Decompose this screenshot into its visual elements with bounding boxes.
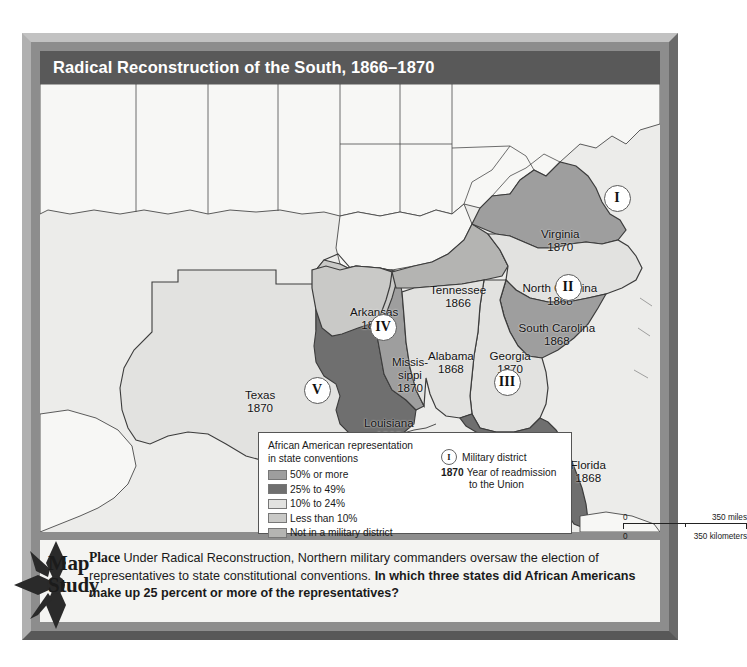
state-label-alabama: Alabama1868 [428,350,474,376]
legend-item: 25% to 49% [268,483,438,496]
page-title: Radical Reconstruction of the South, 186… [40,51,660,84]
legend-title: African American representation in state… [268,440,438,465]
state-label-florida: Florida1868 [571,459,606,485]
state-readmission-year: 1870 [392,382,428,395]
state-readmission-year: 1870 [245,402,275,415]
legend-title-line2: in state conventions [268,453,438,466]
state-readmission-year: 1870 [541,241,579,254]
military-district-marker-iv: IV [370,314,397,341]
military-district-marker-v: V [304,377,331,404]
state-readmission-year: 1866 [430,297,486,310]
legend-item-label: 50% or more [290,469,348,480]
legend-year-label-line1: Year of readmission [467,467,557,479]
state-name: Florida [571,459,606,472]
badge-text: Map Study [48,552,99,596]
legend-swatch [268,484,287,494]
legend-swatch [268,513,287,523]
state-name: South Carolina [519,322,596,335]
legend-military-district-label: Military district [462,452,527,463]
legend-item-label: Not in a military district [290,527,392,538]
military-district-marker-ii: II [555,274,582,301]
map-title-text: Radical Reconstruction of the South, 186… [53,58,434,77]
legend-left-column: African American representation in state… [268,440,438,541]
state-name: Tennessee [430,284,486,297]
state-label-virginia: Virginia1870 [541,228,579,254]
state-name: Georgia [490,350,531,363]
legend-item: Less than 10% [268,512,438,525]
state-name: sippi [392,369,428,382]
legend-year-label-line2: to the Union [469,479,567,490]
state-readmission-year: 1868 [519,335,596,348]
state-label-south-carolina: South Carolina1868 [519,322,596,348]
state-label-texas: Texas1870 [245,389,275,415]
military-district-marker-iii: III [494,369,521,396]
legend-year-example: 1870 [441,467,464,479]
map-scale-bar: 0 350 miles 0 350 kilometers [623,513,747,541]
state-label-missis-sippi: Missis-sippi1870 [392,356,428,394]
map-study-badge: Map Study [12,537,124,633]
state-name: Missis- [392,356,428,369]
scale-miles-max: 350 miles [712,513,747,522]
legend-swatch [268,499,287,509]
military-district-marker-i: I [604,185,631,212]
badge-line-1: Map [48,552,99,574]
legend-title-line1: African American representation [268,440,438,453]
state-readmission-year: 1868 [571,472,606,485]
scale-miles-zero: 0 [623,513,628,522]
state-name: Louisiana [364,417,414,430]
compass-rose: N [147,531,191,532]
scale-bar-line [623,523,747,531]
legend-military-district: I Military district [441,449,567,465]
state-readmission-year: 1868 [428,363,474,376]
legend-item: 50% or more [268,468,438,481]
scale-km-zero: 0 [623,532,628,541]
legend-swatch [268,470,287,480]
legend-item: 10% to 24% [268,497,438,510]
legend-right-column: I Military district 1870 Year of readmis… [441,449,567,490]
badge-line-2: Study [48,574,99,596]
legend-item: Not in a military district [268,526,438,539]
state-name: Texas [245,389,275,402]
legend-item-label: 10% to 24% [290,498,345,509]
military-district-icon: I [441,449,457,465]
legend-item-label: 25% to 49% [290,484,345,495]
legend-year-readmission: 1870 Year of readmission [441,467,567,479]
map-legend: African American representation in state… [258,432,572,534]
map-caption: Place Under Radical Reconstruction, Nort… [40,540,660,622]
scale-km-labels: 0 350 kilometers [623,532,747,541]
legend-items: 50% or more25% to 49%10% to 24%Less than… [268,468,438,539]
state-name: Alabama [428,350,474,363]
scale-miles-labels: 0 350 miles [623,513,747,522]
scale-km-max: 350 kilometers [694,532,747,541]
legend-item-label: Less than 10% [290,513,357,524]
state-name: Virginia [541,228,579,241]
state-label-tennessee: Tennessee1866 [430,284,486,310]
legend-swatch [268,528,287,538]
